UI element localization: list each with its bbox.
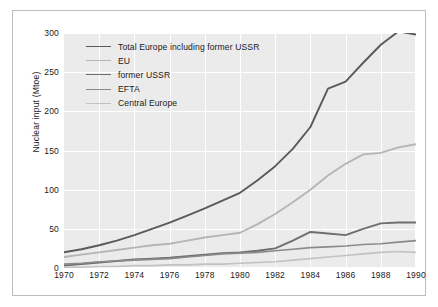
x-axis-tick-label: 1970	[54, 270, 74, 280]
series-line	[64, 241, 416, 265]
x-axis-tick-label: 1978	[195, 270, 215, 280]
legend-item[interactable]: EFTA	[86, 84, 259, 95]
legend-swatch	[86, 103, 111, 104]
x-axis-tick-label: 1988	[371, 270, 391, 280]
legend-item[interactable]: former USSR	[86, 69, 259, 80]
legend-item[interactable]: EU	[86, 55, 259, 66]
y-axis-tick-label: 50	[49, 224, 59, 234]
x-axis-tick-label: 1972	[89, 270, 109, 280]
y-axis-tick-label: 150	[44, 146, 59, 156]
x-axis-tick-label: 1990	[406, 270, 426, 280]
legend-swatch	[86, 46, 111, 47]
y-axis-tick-labels: 050100150200250300	[23, 33, 59, 268]
x-axis-tick-label: 1984	[301, 270, 321, 280]
legend-swatch	[86, 74, 111, 75]
legend-label: Total Europe including former USSR	[118, 42, 259, 52]
legend-label: EFTA	[118, 84, 140, 94]
x-axis-tick-label: 1976	[160, 270, 180, 280]
legend-label: Central Europe	[118, 98, 177, 108]
legend-item[interactable]: Total Europe including former USSR	[86, 41, 259, 52]
y-axis-tick-label: 300	[44, 28, 59, 38]
legend-label: former USSR	[118, 70, 170, 80]
legend-label: EU	[118, 56, 130, 66]
y-axis-tick-label: 100	[44, 185, 59, 195]
chart-legend: Total Europe including former USSREUform…	[86, 41, 259, 109]
y-axis-tick-label: 200	[44, 106, 59, 116]
plot-area: Total Europe including former USSREUform…	[64, 33, 416, 268]
x-axis-tick-label: 1974	[125, 270, 145, 280]
x-axis-tick-label: 1980	[230, 270, 250, 280]
legend-swatch	[86, 89, 111, 90]
legend-swatch	[86, 60, 111, 61]
legend-item[interactable]: Central Europe	[86, 98, 259, 109]
x-axis-tick-label: 1986	[336, 270, 356, 280]
chart-figure: 050100150200250300 Nuclear input (Mtoe) …	[12, 10, 426, 296]
y-axis-title: Nuclear input (Mtoe)	[31, 47, 41, 177]
x-axis-tick-labels: 1970197219741976197819801982198419861988…	[64, 270, 416, 284]
y-axis-tick-label: 250	[44, 67, 59, 77]
x-axis-tick-label: 1982	[265, 270, 285, 280]
